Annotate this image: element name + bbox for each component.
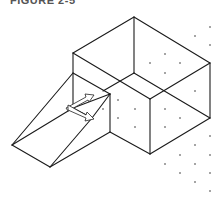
grid-dot — [117, 117, 119, 119]
grid-dot — [164, 72, 166, 74]
grid-dot — [179, 62, 181, 64]
grid-dot — [209, 44, 211, 46]
grid-dot — [164, 53, 166, 55]
wedge-edge — [12, 145, 50, 167]
grid-dot — [194, 35, 196, 37]
grid-dot — [209, 26, 211, 28]
box-edge — [73, 17, 134, 53]
wedge-solid — [12, 73, 110, 167]
grid-dot — [179, 154, 181, 156]
grid-dot — [194, 181, 196, 183]
box-edge — [110, 132, 150, 154]
box-solid — [73, 17, 210, 154]
grid-dot — [194, 144, 196, 146]
wedge-edge — [73, 73, 110, 94]
wedge-edge — [12, 73, 73, 145]
grid-dot — [194, 163, 196, 165]
box-edge — [150, 63, 210, 99]
grid-dot — [179, 117, 181, 119]
isometric-drawing — [0, 0, 223, 203]
grid-dot — [164, 163, 166, 165]
grid-dot — [209, 172, 211, 174]
grid-dot — [164, 108, 166, 110]
wedge-edge — [12, 108, 73, 145]
grid-dot — [102, 108, 104, 110]
grid-dot — [209, 190, 211, 192]
grid-dot — [117, 99, 119, 101]
box-edge — [134, 73, 210, 118]
grid-dot — [134, 126, 136, 128]
grid-dot — [164, 126, 166, 128]
ucs-icon — [66, 94, 94, 121]
grid-dot — [149, 62, 151, 64]
box-edge — [134, 17, 210, 63]
wedge-edge — [50, 132, 110, 167]
grid-dot — [209, 135, 211, 137]
grid-dot — [194, 90, 196, 92]
box-edge — [150, 118, 210, 154]
box-edge — [103, 73, 134, 91]
ucs-y-arrow-icon — [68, 105, 94, 121]
grid-dot — [179, 172, 181, 174]
grid-dot — [209, 154, 211, 156]
grid-dot — [134, 108, 136, 110]
wedge-edge — [50, 118, 92, 167]
